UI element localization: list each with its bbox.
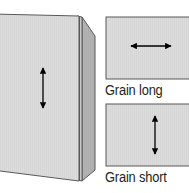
grain-direction-figure: Grain long Grain short [0, 0, 189, 193]
swatch-grain-long-group [106, 17, 189, 79]
folded-card-front-panel [0, 14, 79, 181]
swatch-grain-short-rect [106, 104, 189, 166]
caption-grain-long: Grain long [105, 83, 163, 97]
folded-card-group [0, 14, 95, 181]
folded-card-back-panel [82, 17, 95, 181]
caption-grain-short: Grain short [105, 170, 167, 184]
swatch-grain-long-rect [106, 17, 189, 79]
swatch-grain-short-group [106, 104, 189, 166]
